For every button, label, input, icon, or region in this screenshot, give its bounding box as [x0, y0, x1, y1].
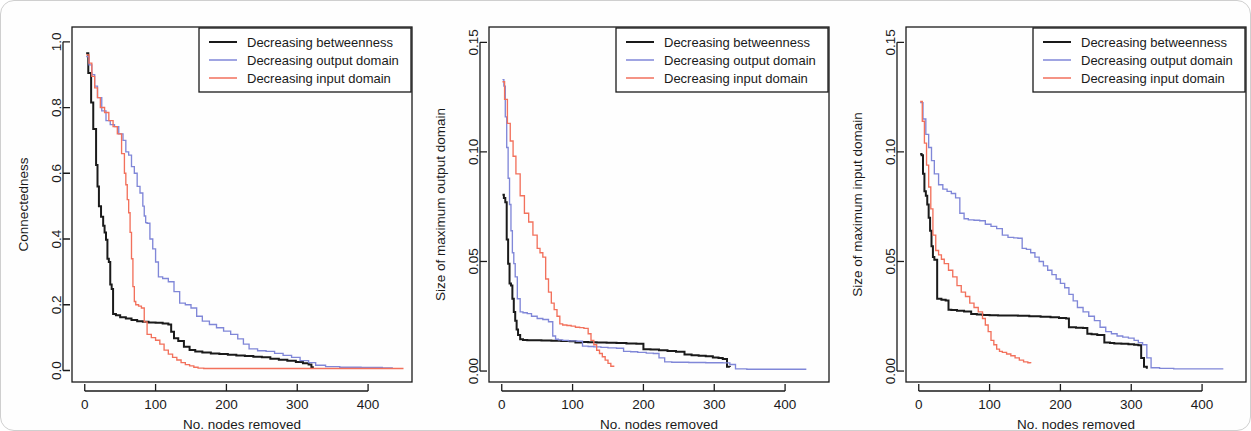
- series-line-decreasing-output-domain: [86, 57, 393, 368]
- legend-label-decreasing-input-domain: Decreasing input domain: [1081, 71, 1225, 86]
- y-tick-label: 0.05: [884, 248, 899, 274]
- x-tick-label: 300: [286, 397, 309, 412]
- y-axis: 0.000.050.100.15: [467, 29, 488, 384]
- x-axis-title: No. nodes removed: [1017, 417, 1135, 431]
- x-tick-label: 200: [632, 397, 655, 412]
- y-axis-title: Connectedness: [16, 157, 31, 251]
- y-tick-label: 0.0: [50, 361, 65, 380]
- series-line-decreasing-output-domain: [920, 103, 1223, 369]
- y-axis-title: Size of maximum input domain: [850, 112, 865, 297]
- chart-panel-max-input-domain: 0.000.050.100.15Size of maximum input do…: [835, 1, 1251, 431]
- chart-panel-connectedness: 0.00.20.40.60.81.0Connectedness010020030…: [1, 1, 418, 431]
- x-tick-label: 100: [144, 397, 167, 412]
- legend: Decreasing betweennessDecreasing output …: [199, 28, 411, 92]
- y-axis: 0.000.050.100.15: [884, 29, 905, 384]
- x-axis: 0100200300400: [915, 384, 1213, 412]
- chart-svg: 0.000.050.100.15Size of maximum input do…: [835, 1, 1251, 431]
- x-axis-title: No. nodes removed: [600, 417, 718, 431]
- series-line-decreasing-betweenness: [502, 195, 729, 367]
- x-tick-label: 400: [357, 397, 380, 412]
- y-tick-label: 0.00: [467, 358, 482, 384]
- chart-svg: 0.000.050.100.15Size of maximum output d…: [418, 1, 835, 431]
- series-line-decreasing-output-domain: [502, 80, 806, 370]
- series-line-decreasing-betweenness: [86, 53, 313, 368]
- chart-panel-max-output-domain: 0.000.050.100.15Size of maximum output d…: [418, 1, 835, 431]
- legend-label-decreasing-output-domain: Decreasing output domain: [1081, 53, 1233, 68]
- legend-label-decreasing-input-domain: Decreasing input domain: [664, 71, 808, 86]
- y-axis-title: Size of maximum output domain: [433, 108, 448, 301]
- series-line-decreasing-input-domain: [502, 82, 613, 367]
- series-line-decreasing-input-domain: [86, 55, 403, 369]
- y-tick-label: 0.2: [50, 295, 65, 314]
- legend-label-decreasing-input-domain: Decreasing input domain: [247, 71, 391, 86]
- x-tick-label: 200: [215, 397, 238, 412]
- x-tick-label: 100: [561, 397, 584, 412]
- x-tick-label: 0: [915, 397, 923, 412]
- series-line-decreasing-input-domain: [920, 102, 1030, 364]
- y-tick-label: 0.00: [884, 358, 899, 384]
- y-tick-label: 0.15: [467, 29, 482, 55]
- legend-label-decreasing-output-domain: Decreasing output domain: [664, 53, 816, 68]
- legend-label-decreasing-output-domain: Decreasing output domain: [247, 53, 399, 68]
- chart-svg: 0.00.20.40.60.81.0Connectedness010020030…: [1, 1, 418, 431]
- x-tick-label: 200: [1049, 397, 1072, 412]
- y-tick-label: 0.8: [50, 98, 65, 117]
- figure-card: 0.00.20.40.60.81.0Connectedness010020030…: [0, 0, 1251, 431]
- y-tick-label: 0.05: [467, 248, 482, 274]
- y-tick-label: 0.10: [467, 139, 482, 165]
- y-tick-label: 1.0: [50, 32, 65, 51]
- x-tick-label: 0: [81, 397, 89, 412]
- x-tick-label: 0: [498, 397, 506, 412]
- legend: Decreasing betweennessDecreasing output …: [616, 28, 828, 92]
- x-axis: 0100200300400: [498, 384, 796, 412]
- x-tick-label: 400: [774, 397, 797, 412]
- legend: Decreasing betweennessDecreasing output …: [1033, 28, 1245, 92]
- legend-label-decreasing-betweenness: Decreasing betweenness: [664, 35, 810, 50]
- x-axis: 0100200300400: [81, 384, 379, 412]
- legend-label-decreasing-betweenness: Decreasing betweenness: [247, 35, 393, 50]
- x-axis-title: No. nodes removed: [183, 417, 301, 431]
- y-tick-label: 0.15: [884, 29, 899, 55]
- x-tick-label: 400: [1191, 397, 1214, 412]
- y-tick-label: 0.6: [50, 164, 65, 183]
- x-tick-label: 300: [1120, 397, 1143, 412]
- x-tick-label: 300: [703, 397, 726, 412]
- y-tick-label: 0.10: [884, 139, 899, 165]
- y-axis: 0.00.20.40.60.81.0: [50, 32, 71, 379]
- series-line-decreasing-betweenness: [920, 154, 1147, 369]
- legend-label-decreasing-betweenness: Decreasing betweenness: [1081, 35, 1227, 50]
- y-tick-label: 0.4: [50, 229, 65, 248]
- x-tick-label: 100: [978, 397, 1001, 412]
